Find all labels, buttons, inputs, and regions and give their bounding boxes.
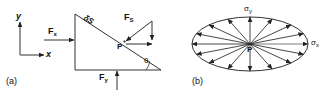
- panel-b-caption: (b): [192, 77, 203, 86]
- point-p-label-b: P: [247, 46, 252, 54]
- force-s-label-text: F: [124, 12, 130, 22]
- panel-a-force-diagram: y x Fx Fy FS δS P θ (a): [0, 0, 168, 96]
- panel-a-graphics: [0, 0, 168, 96]
- force-x-label-subscript: x: [54, 31, 57, 37]
- stress-vector-135deg: [209, 44, 250, 63]
- figure-root: y x Fx Fy FS δS P θ (a): [0, 0, 336, 96]
- sigma-x-label-subscript: x: [316, 42, 319, 48]
- panel-a-caption: (a): [6, 77, 17, 86]
- x-axis-label: x: [46, 50, 51, 59]
- sigma-x-label: σx: [311, 39, 319, 47]
- sigma-y-label-subscript: y: [249, 8, 252, 14]
- stress-vector-45deg: [250, 44, 291, 63]
- point-p-marker: [123, 40, 125, 42]
- force-y-label-text: F: [99, 72, 105, 82]
- stress-vector-225deg: [209, 25, 250, 44]
- y-axis-label: y: [16, 12, 21, 21]
- force-y-label-subscript: y: [105, 77, 108, 83]
- stress-vector-315deg: [250, 25, 291, 44]
- force-x-label-text: F: [48, 26, 54, 36]
- force-s-label: FS: [124, 13, 134, 22]
- panel-b-stress-ellipse: σy σx P (b): [168, 0, 336, 96]
- force-s-label-subscript: S: [130, 17, 134, 23]
- sigma-y-label: σy: [244, 5, 252, 13]
- force-s-resultant-arrow: [126, 21, 152, 41]
- point-p-label-a: P: [117, 43, 122, 51]
- theta-angle-label: θ: [144, 57, 148, 65]
- force-x-label: Fx: [48, 27, 57, 36]
- coordinate-axes: [20, 22, 44, 55]
- force-y-label: Fy: [99, 73, 108, 82]
